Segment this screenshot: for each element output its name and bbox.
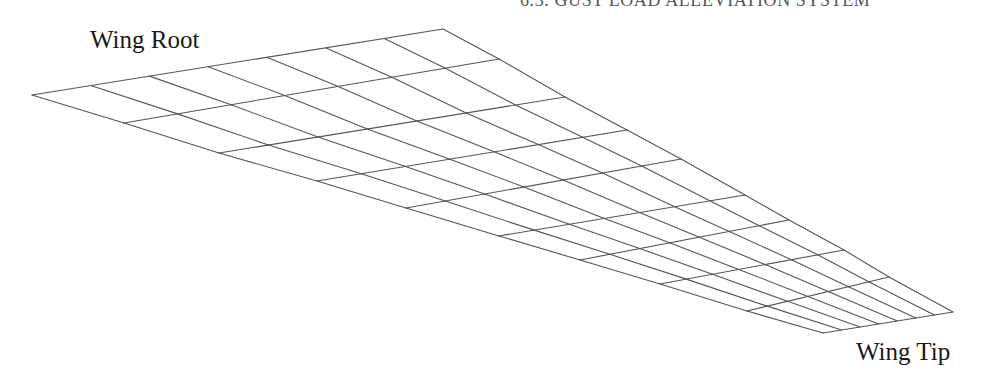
mesh-spar-line [789, 220, 844, 250]
mesh-spar-line [818, 255, 869, 282]
mesh-spar-line [267, 57, 338, 86]
mesh-spar-line [767, 306, 841, 330]
mesh-spar-line [231, 105, 318, 137]
mesh-spar-line [392, 77, 466, 113]
mesh-spar-line [739, 269, 808, 296]
mesh-spar-line [91, 86, 178, 114]
mesh-spar-line [710, 201, 759, 226]
mesh-spar-line [534, 230, 610, 254]
mesh-spar-line [713, 274, 788, 301]
mesh-spar-line [499, 59, 565, 97]
mesh-spar-line [406, 166, 485, 194]
mesh-spar-line [538, 145, 602, 173]
mesh-spar-line [610, 254, 686, 279]
mesh-spar-line [494, 152, 563, 180]
mesh-spar-line [417, 121, 494, 152]
mesh-spar-line [318, 137, 406, 166]
mesh-spar-line [466, 113, 538, 145]
mesh-spar-line [124, 123, 219, 153]
wing-root-label: Wing Root [90, 26, 199, 54]
mesh-spar-line [580, 260, 660, 284]
mesh-spar-line [791, 260, 848, 287]
mesh-spar-line [729, 231, 791, 259]
mesh-spar-line [869, 282, 935, 315]
mesh-spar-line [326, 48, 392, 77]
mesh-spar-line [747, 311, 823, 333]
mesh-spar-line [640, 213, 700, 238]
mesh-spar-line [848, 287, 915, 318]
mesh-spar-line [149, 76, 231, 105]
mesh-spar-line [670, 243, 739, 270]
mesh-spar-line [516, 105, 583, 137]
wing-tip-label: Wing Tip [856, 338, 950, 366]
mesh-rib-line [499, 195, 745, 236]
mesh-spar-line [660, 284, 747, 311]
mesh-spar-line [788, 301, 861, 327]
mesh-spar-line [338, 86, 416, 121]
mesh-spar-line [759, 226, 818, 255]
mesh-spar-line [808, 296, 879, 324]
mesh-spar-line [640, 249, 713, 275]
mesh-rib-line [660, 250, 844, 284]
mesh-spar-line [627, 130, 681, 159]
mesh-spar-line [219, 153, 317, 181]
mesh-spar-line [450, 159, 524, 187]
mesh-spar-line [208, 67, 285, 96]
mesh-spar-line [367, 129, 450, 159]
mesh-spar-line [406, 208, 499, 236]
mesh-spar-line [485, 194, 570, 224]
mesh-rib-line [219, 97, 565, 153]
mesh-spar-line [285, 96, 368, 129]
mesh-spar-line [681, 159, 745, 195]
mesh-rib-line [124, 59, 499, 123]
mesh-spar-line [178, 114, 269, 145]
mesh-spar-line [361, 174, 445, 201]
mesh-rib-line [406, 159, 681, 208]
mesh-spar-line [268, 145, 361, 174]
mesh-spar-line [499, 236, 580, 260]
wing-mesh-diagram [0, 0, 981, 387]
mesh-spar-line [445, 201, 534, 230]
mesh-spar-line [445, 68, 515, 105]
mesh-spar-line [699, 237, 765, 264]
mesh-spar-line [443, 29, 499, 59]
mesh-spar-line [828, 292, 897, 321]
mesh-spar-line [32, 95, 124, 123]
mesh-rib-line [580, 220, 789, 260]
mesh-rib-line [823, 312, 953, 333]
mesh-rib-line [317, 130, 627, 181]
mesh-spar-line [745, 195, 789, 220]
mesh-spar-line [889, 277, 953, 312]
mesh-spar-line [686, 279, 767, 306]
mesh-spar-line [317, 181, 406, 208]
mesh-spar-line [675, 207, 730, 232]
mesh-spar-line [765, 265, 828, 292]
mesh-spar-line [565, 97, 627, 130]
mesh-spar-line [524, 187, 605, 218]
mesh-spar-line [583, 137, 642, 166]
mesh-spar-line [384, 38, 445, 68]
